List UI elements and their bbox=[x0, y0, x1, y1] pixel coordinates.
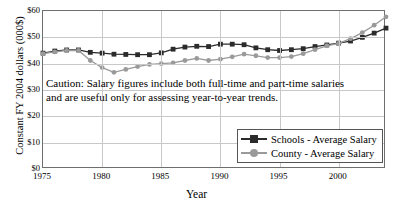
data-point-marker bbox=[183, 45, 188, 50]
data-point-marker bbox=[372, 23, 377, 28]
data-point-marker bbox=[384, 26, 389, 31]
legend-label-county: County - Average Salary bbox=[267, 148, 374, 159]
data-point-marker bbox=[112, 70, 117, 75]
data-point-marker bbox=[289, 47, 294, 52]
caution-line-2: and are useful only for assessing year-t… bbox=[46, 90, 346, 104]
x-tick-label: 1980 bbox=[81, 171, 121, 181]
data-point-marker bbox=[41, 51, 46, 56]
data-point-marker bbox=[112, 52, 117, 57]
x-tick-label: 1975 bbox=[22, 171, 62, 181]
caution-line-1: Caution: Salary figures include both ful… bbox=[46, 76, 346, 90]
data-point-marker bbox=[360, 30, 365, 35]
y-tick-label: $10 bbox=[0, 138, 40, 147]
y-tick-label: $50 bbox=[0, 32, 40, 41]
x-tick-label: 1990 bbox=[199, 171, 239, 181]
x-tick-label: 2000 bbox=[318, 171, 358, 181]
data-point-marker bbox=[88, 58, 93, 63]
caution-annotation: Caution: Salary figures include both ful… bbox=[46, 76, 346, 104]
x-axis-title: Year bbox=[0, 188, 393, 200]
data-point-marker bbox=[254, 53, 259, 58]
data-point-marker bbox=[301, 46, 306, 51]
gridline-horizontal bbox=[43, 37, 384, 38]
y-tick-label: $60 bbox=[0, 6, 40, 15]
data-point-marker bbox=[206, 58, 211, 63]
legend: Schools - Average Salary County - Averag… bbox=[237, 129, 383, 163]
data-point-marker bbox=[194, 56, 199, 61]
data-point-marker bbox=[324, 43, 329, 48]
data-point-marker bbox=[372, 31, 377, 36]
legend-marker-circle-icon bbox=[241, 147, 267, 159]
data-point-marker bbox=[242, 52, 247, 57]
x-tick-label: 1995 bbox=[259, 171, 299, 181]
data-point-marker bbox=[254, 45, 259, 50]
data-point-marker bbox=[52, 49, 57, 54]
data-point-marker bbox=[194, 44, 199, 49]
data-point-marker bbox=[183, 58, 188, 63]
data-point-marker bbox=[301, 51, 306, 56]
chart-figure: Constant FY 2004 dollars (000$) $60$50$4… bbox=[0, 0, 393, 208]
data-point-marker bbox=[171, 47, 176, 52]
x-tick-label: 1985 bbox=[140, 171, 180, 181]
data-point-marker bbox=[242, 42, 247, 47]
data-point-marker bbox=[123, 52, 128, 57]
legend-item-schools: Schools - Average Salary bbox=[241, 132, 377, 146]
data-point-marker bbox=[230, 54, 235, 59]
data-point-marker bbox=[265, 55, 270, 60]
data-point-marker bbox=[206, 44, 211, 49]
data-point-marker bbox=[123, 67, 128, 72]
data-point-marker bbox=[289, 54, 294, 59]
legend-label-schools: Schools - Average Salary bbox=[267, 134, 377, 145]
gridline-horizontal bbox=[43, 116, 384, 117]
legend-item-county: County - Average Salary bbox=[241, 146, 377, 160]
data-point-marker bbox=[265, 47, 270, 52]
data-point-marker bbox=[135, 52, 140, 57]
y-tick-label: $30 bbox=[0, 85, 40, 94]
y-tick-label: $40 bbox=[0, 59, 40, 68]
data-point-marker bbox=[76, 48, 81, 53]
y-tick-label: $20 bbox=[0, 111, 40, 120]
data-point-marker bbox=[230, 42, 235, 47]
legend-marker-square-icon bbox=[241, 133, 267, 145]
data-point-marker bbox=[64, 48, 69, 53]
series-line-schools bbox=[43, 28, 386, 55]
data-point-marker bbox=[88, 50, 93, 55]
gridline-horizontal bbox=[43, 64, 384, 65]
data-point-marker bbox=[384, 14, 389, 19]
data-point-marker bbox=[147, 52, 152, 57]
data-point-marker bbox=[313, 47, 318, 52]
